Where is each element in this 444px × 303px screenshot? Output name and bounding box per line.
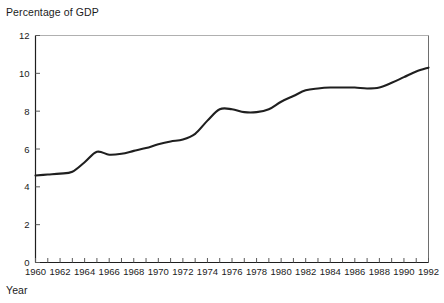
svg-text:1980: 1980 <box>271 266 292 277</box>
svg-text:1976: 1976 <box>221 266 242 277</box>
x-axis-ticks: 1960196219641966196819701972197419761978… <box>25 258 439 277</box>
svg-text:1964: 1964 <box>74 266 95 277</box>
svg-text:2: 2 <box>24 219 29 230</box>
svg-text:1972: 1972 <box>172 266 193 277</box>
data-series-group <box>36 68 429 176</box>
y-axis-ticks: 024681012 <box>19 30 40 268</box>
line-chart-plot: 024681012 196019621964196619681970197219… <box>0 0 444 303</box>
svg-text:1966: 1966 <box>99 266 120 277</box>
svg-text:6: 6 <box>24 144 29 155</box>
svg-text:1968: 1968 <box>123 266 144 277</box>
svg-text:1982: 1982 <box>295 266 316 277</box>
svg-text:1970: 1970 <box>148 266 169 277</box>
svg-text:8: 8 <box>24 106 29 117</box>
plot-frame <box>36 36 429 263</box>
svg-text:1992: 1992 <box>418 266 439 277</box>
svg-text:4: 4 <box>24 181 29 192</box>
svg-text:1974: 1974 <box>197 266 218 277</box>
svg-text:1986: 1986 <box>344 266 365 277</box>
svg-text:12: 12 <box>19 30 30 41</box>
svg-text:10: 10 <box>19 68 30 79</box>
svg-text:1988: 1988 <box>369 266 390 277</box>
svg-text:1990: 1990 <box>393 266 414 277</box>
svg-text:1962: 1962 <box>49 266 70 277</box>
svg-text:1978: 1978 <box>246 266 267 277</box>
svg-text:1984: 1984 <box>320 266 341 277</box>
chart-container: Percentage of GDP Year 024681012 1960196… <box>0 0 444 303</box>
svg-text:1960: 1960 <box>25 266 46 277</box>
